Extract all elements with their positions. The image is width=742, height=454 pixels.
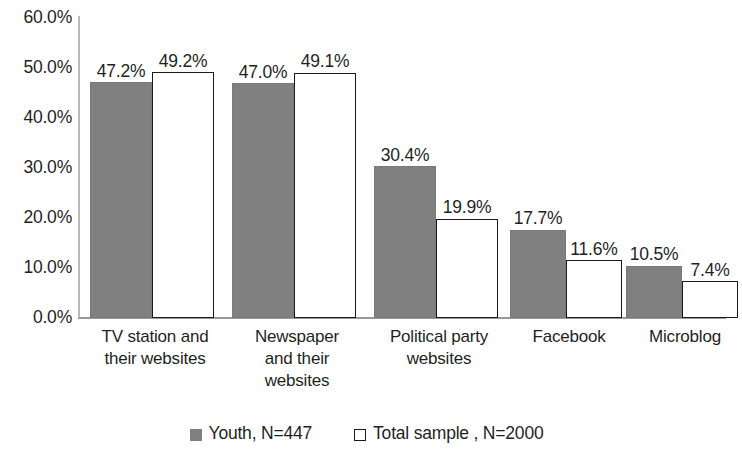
bar-value-label: 11.6% xyxy=(570,241,617,259)
bar-total-sample: 19.9% xyxy=(436,219,498,319)
y-axis-tick-label: 50.0% xyxy=(2,59,72,77)
category-label-line: and their xyxy=(218,348,376,370)
x-axis-category-labels: TV station andtheir websitesNewspaperand… xyxy=(80,326,726,412)
bar-value-label: 17.7% xyxy=(514,210,563,228)
bar-value-label: 7.4% xyxy=(690,262,729,280)
bar-group: 30.4%19.9% xyxy=(374,0,504,319)
chart-legend: Youth, N=447Total sample , N=2000 xyxy=(0,418,733,450)
bar-value-label: 19.9% xyxy=(443,199,492,217)
y-axis-tick-label: 40.0% xyxy=(2,109,72,127)
category-label-line: Microblog xyxy=(612,326,742,348)
bar-value-label: 47.2% xyxy=(97,63,146,81)
x-axis-category-label: Political partywebsites xyxy=(360,326,518,370)
bar-youth: 17.7% xyxy=(510,230,566,319)
legend-swatch-hollow-icon xyxy=(354,429,366,441)
bar-youth: 47.0% xyxy=(232,83,294,318)
bar-value-label: 47.0% xyxy=(239,64,288,82)
category-label-line: Newspaper xyxy=(218,326,376,348)
x-axis-category-label: Microblog xyxy=(612,326,742,348)
bar-total-sample: 49.1% xyxy=(294,73,356,319)
legend-item: Total sample , N=2000 xyxy=(354,425,543,443)
x-axis-category-label: TV station andtheir websites xyxy=(76,326,234,370)
bar-youth: 47.2% xyxy=(90,82,152,318)
bar-group: 17.7%11.6% xyxy=(510,0,628,319)
x-axis-category-label: Newspaperand theirwebsites xyxy=(218,326,376,392)
y-axis-tick-label: 10.0% xyxy=(2,259,72,277)
bar-group: 10.5%7.4% xyxy=(626,0,742,319)
category-label-line: websites xyxy=(360,348,518,370)
y-axis-tick-label: 60.0% xyxy=(2,9,72,27)
category-label-line: Political party xyxy=(360,326,518,348)
legend-item: Youth, N=447 xyxy=(190,425,313,443)
y-axis-tick-label: 30.0% xyxy=(2,159,72,177)
y-axis-tick-label: 20.0% xyxy=(2,209,72,227)
bar-value-label: 49.1% xyxy=(301,53,350,71)
category-label-line: their websites xyxy=(76,348,234,370)
bar-total-sample: 11.6% xyxy=(566,260,622,318)
bar-total-sample: 7.4% xyxy=(682,281,738,318)
legend-label: Total sample , N=2000 xyxy=(373,425,543,443)
bar-group: 47.0%49.1% xyxy=(232,0,362,319)
y-axis-tick-labels: 60.0%50.0%40.0%30.0%20.0%10.0%0.0% xyxy=(0,0,72,454)
bar-total-sample: 49.2% xyxy=(152,72,214,318)
bar-value-label: 49.2% xyxy=(159,53,208,71)
bar-value-label: 10.5% xyxy=(630,246,679,264)
bar-youth: 10.5% xyxy=(626,266,682,319)
bar-group: 47.2%49.2% xyxy=(90,0,220,319)
legend-label: Youth, N=447 xyxy=(209,425,313,443)
y-axis-tick-label: 0.0% xyxy=(2,309,72,327)
category-label-line: TV station and xyxy=(76,326,234,348)
legend-swatch-filled-icon xyxy=(190,429,202,441)
bar-value-label: 30.4% xyxy=(381,147,430,165)
category-label-line: websites xyxy=(218,370,376,392)
bar-youth: 30.4% xyxy=(374,166,436,318)
bar-groups: 47.2%49.2%47.0%49.1%30.4%19.9%17.7%11.6%… xyxy=(80,0,726,319)
